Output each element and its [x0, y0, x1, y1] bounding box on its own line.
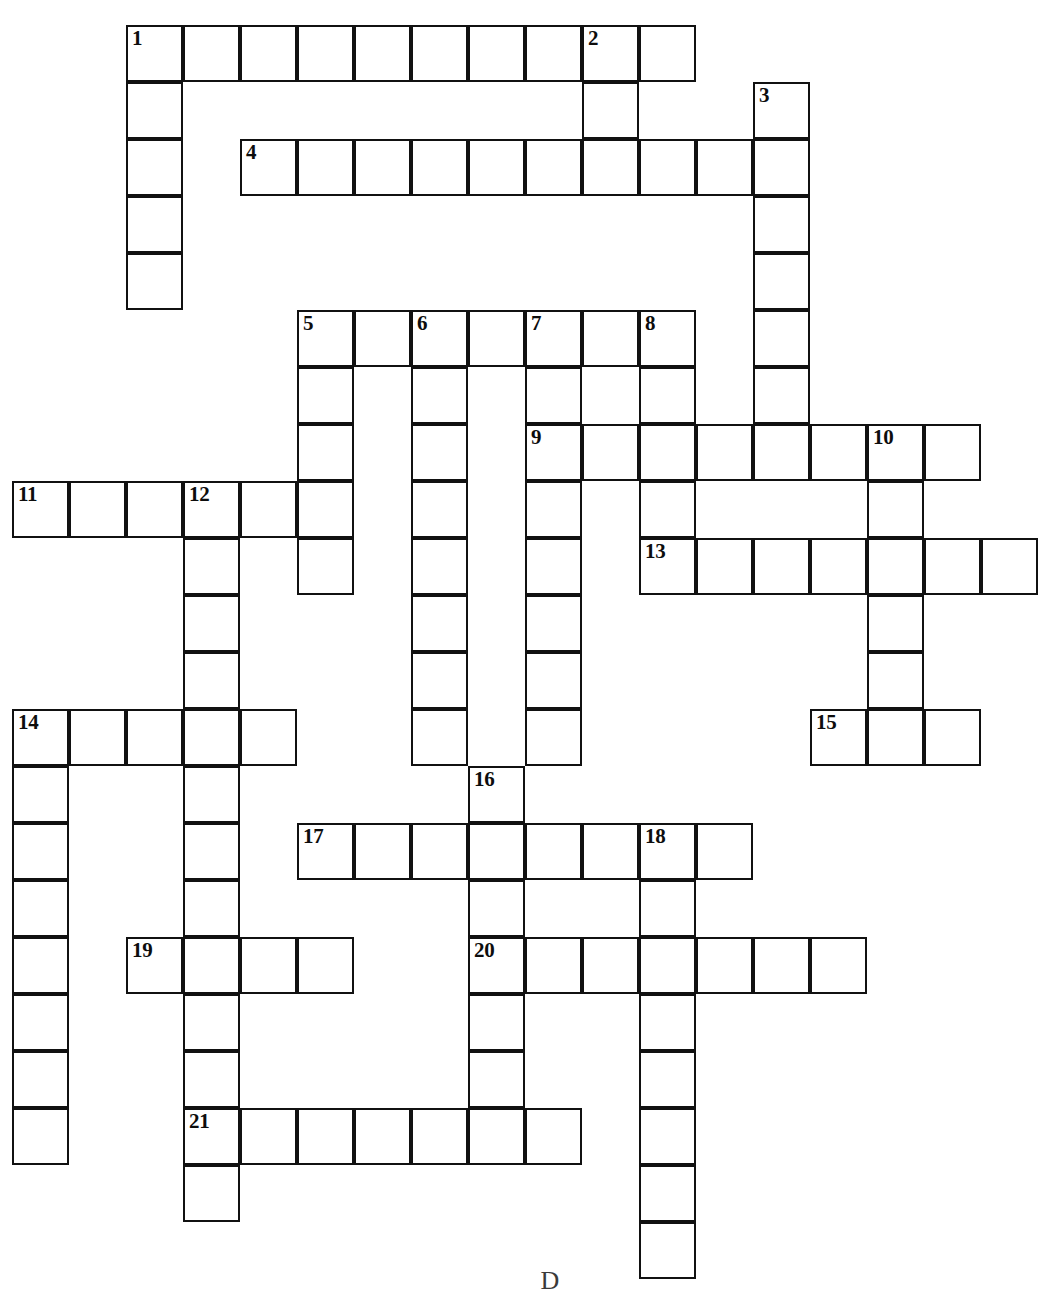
crossword-cell[interactable]: [297, 1108, 354, 1165]
crossword-cell[interactable]: [12, 766, 69, 823]
crossword-cell[interactable]: [525, 1108, 582, 1165]
crossword-cell[interactable]: [525, 652, 582, 709]
crossword-cell[interactable]: [183, 1051, 240, 1108]
crossword-cell[interactable]: [639, 1108, 696, 1165]
crossword-cell[interactable]: [411, 367, 468, 424]
crossword-cell-numbered-12[interactable]: 12: [183, 481, 240, 538]
crossword-cell[interactable]: [354, 310, 411, 367]
crossword-cell[interactable]: [297, 139, 354, 196]
crossword-cell[interactable]: [354, 139, 411, 196]
crossword-cell[interactable]: [867, 652, 924, 709]
crossword-cell[interactable]: [183, 709, 240, 766]
crossword-cell-numbered-17[interactable]: 17: [297, 823, 354, 880]
crossword-cell[interactable]: [411, 25, 468, 82]
crossword-cell[interactable]: [810, 538, 867, 595]
crossword-cell-numbered-11[interactable]: 11: [12, 481, 69, 538]
crossword-cell[interactable]: [468, 823, 525, 880]
crossword-cell[interactable]: [297, 481, 354, 538]
crossword-cell[interactable]: [639, 25, 696, 82]
crossword-cell[interactable]: [525, 481, 582, 538]
crossword-cell[interactable]: [582, 310, 639, 367]
crossword-cell[interactable]: [468, 139, 525, 196]
crossword-cell-numbered-10[interactable]: 10: [867, 424, 924, 481]
crossword-cell-numbered-20[interactable]: 20: [468, 937, 525, 994]
crossword-cell[interactable]: [12, 1051, 69, 1108]
crossword-cell[interactable]: [12, 880, 69, 937]
crossword-cell[interactable]: [183, 880, 240, 937]
crossword-cell[interactable]: [468, 310, 525, 367]
crossword-cell-numbered-15[interactable]: 15: [810, 709, 867, 766]
crossword-cell[interactable]: [810, 937, 867, 994]
crossword-cell[interactable]: [126, 196, 183, 253]
crossword-cell[interactable]: [639, 424, 696, 481]
crossword-cell[interactable]: [468, 994, 525, 1051]
crossword-cell[interactable]: [639, 994, 696, 1051]
crossword-cell[interactable]: [525, 709, 582, 766]
crossword-cell[interactable]: [12, 1108, 69, 1165]
crossword-cell[interactable]: [297, 538, 354, 595]
crossword-cell[interactable]: [354, 1108, 411, 1165]
crossword-cell[interactable]: [69, 709, 126, 766]
crossword-cell[interactable]: [582, 139, 639, 196]
crossword-cell-numbered-18[interactable]: 18: [639, 823, 696, 880]
crossword-cell[interactable]: [582, 82, 639, 139]
crossword-cell[interactable]: [753, 253, 810, 310]
crossword-cell[interactable]: [468, 880, 525, 937]
crossword-cell[interactable]: [126, 481, 183, 538]
crossword-cell[interactable]: [639, 1051, 696, 1108]
crossword-cell[interactable]: [126, 709, 183, 766]
crossword-cell[interactable]: [411, 595, 468, 652]
crossword-cell[interactable]: [69, 481, 126, 538]
crossword-cell[interactable]: [411, 652, 468, 709]
crossword-cell[interactable]: [753, 367, 810, 424]
crossword-cell[interactable]: [525, 139, 582, 196]
crossword-cell-numbered-4[interactable]: 4: [240, 139, 297, 196]
crossword-cell[interactable]: [525, 595, 582, 652]
crossword-cell[interactable]: [639, 139, 696, 196]
crossword-cell[interactable]: [126, 139, 183, 196]
crossword-cell[interactable]: [924, 538, 981, 595]
crossword-cell[interactable]: [354, 25, 411, 82]
crossword-cell[interactable]: [981, 538, 1038, 595]
crossword-cell-numbered-5[interactable]: 5: [297, 310, 354, 367]
crossword-cell[interactable]: [411, 1108, 468, 1165]
crossword-cell[interactable]: [867, 481, 924, 538]
crossword-cell[interactable]: [753, 139, 810, 196]
crossword-cell[interactable]: [183, 538, 240, 595]
crossword-cell[interactable]: [183, 25, 240, 82]
crossword-cell[interactable]: [582, 424, 639, 481]
crossword-cell[interactable]: [753, 937, 810, 994]
crossword-cell[interactable]: [867, 709, 924, 766]
crossword-cell[interactable]: [126, 82, 183, 139]
crossword-cell[interactable]: [240, 709, 297, 766]
crossword-cell-numbered-9[interactable]: 9: [525, 424, 582, 481]
crossword-cell[interactable]: [696, 823, 753, 880]
crossword-cell-numbered-2[interactable]: 2: [582, 25, 639, 82]
crossword-cell[interactable]: [468, 1051, 525, 1108]
crossword-cell[interactable]: [240, 937, 297, 994]
crossword-cell[interactable]: [753, 424, 810, 481]
crossword-cell[interactable]: [297, 937, 354, 994]
crossword-cell[interactable]: [639, 481, 696, 538]
crossword-cell[interactable]: [411, 538, 468, 595]
crossword-cell[interactable]: [639, 367, 696, 424]
crossword-cell[interactable]: [240, 25, 297, 82]
crossword-cell[interactable]: [753, 538, 810, 595]
crossword-cell[interactable]: [582, 937, 639, 994]
crossword-cell[interactable]: [183, 994, 240, 1051]
crossword-cell-numbered-13[interactable]: 13: [639, 538, 696, 595]
crossword-cell[interactable]: [525, 25, 582, 82]
crossword-cell[interactable]: [183, 1165, 240, 1222]
crossword-cell[interactable]: [867, 538, 924, 595]
crossword-cell[interactable]: [297, 367, 354, 424]
crossword-cell[interactable]: [639, 880, 696, 937]
crossword-cell[interactable]: [12, 823, 69, 880]
crossword-cell-numbered-7[interactable]: 7: [525, 310, 582, 367]
crossword-cell[interactable]: [582, 823, 639, 880]
crossword-cell[interactable]: [183, 652, 240, 709]
crossword-cell[interactable]: [411, 139, 468, 196]
crossword-cell[interactable]: [12, 994, 69, 1051]
crossword-cell-numbered-6[interactable]: 6: [411, 310, 468, 367]
crossword-cell[interactable]: [753, 310, 810, 367]
crossword-cell[interactable]: [411, 481, 468, 538]
